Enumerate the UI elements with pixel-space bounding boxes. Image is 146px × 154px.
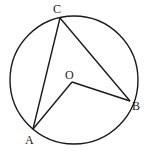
label-a: A: [25, 133, 34, 147]
label-c: C: [53, 2, 61, 16]
label-b: B: [132, 99, 140, 113]
label-o: O: [65, 68, 74, 82]
geometry-diagram: C O B A: [0, 0, 146, 154]
segment-cb: [60, 18, 130, 101]
